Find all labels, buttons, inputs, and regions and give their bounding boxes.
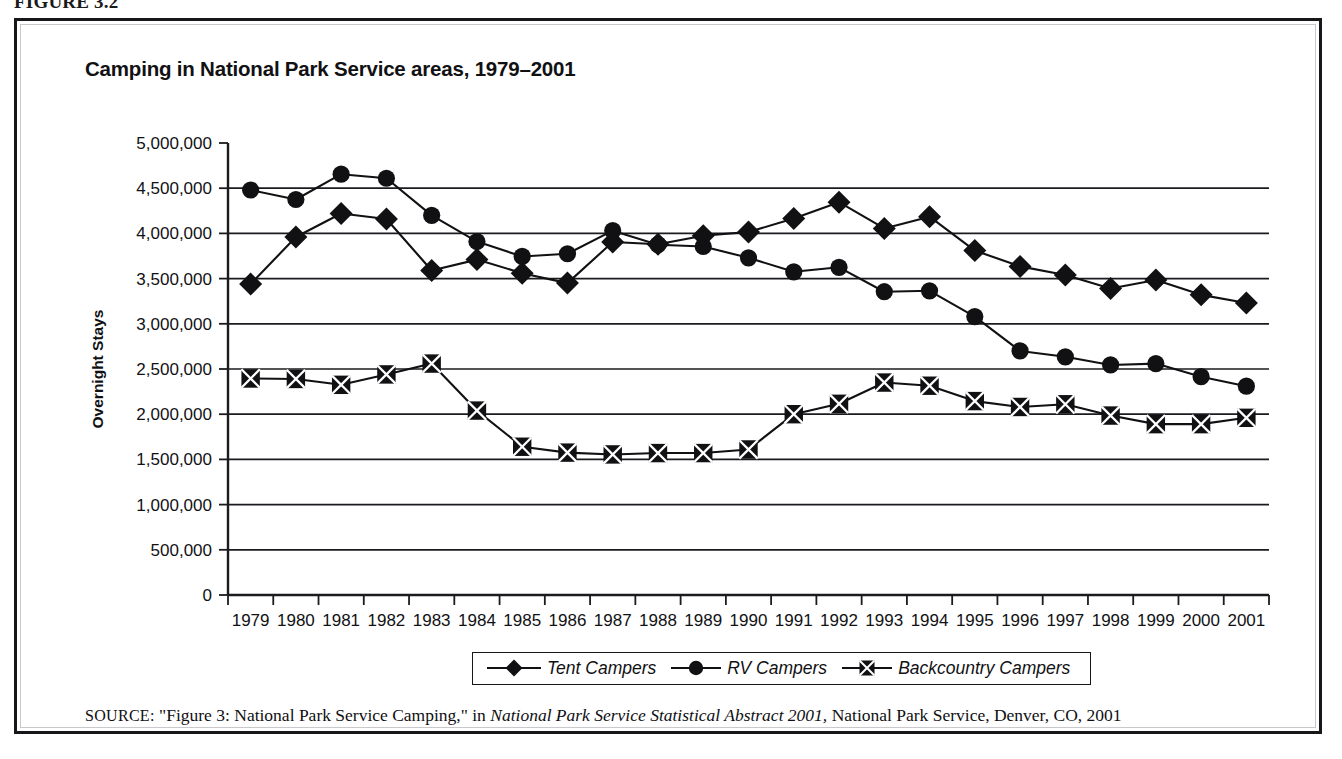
y-axis-title: Overnight Stays [89, 310, 106, 429]
data-point-diamond [1009, 255, 1032, 278]
y-axis-tick-label: 3,000,000 [136, 315, 212, 334]
crossed-square-marker-icon [841, 657, 893, 679]
data-point-circle [830, 259, 847, 276]
y-axis-tick-label: 4,000,000 [136, 224, 212, 243]
x-axis-tick-label: 1998 [1092, 611, 1130, 630]
y-axis-tick-label: 5,000,000 [136, 134, 212, 153]
data-point-circle [921, 282, 938, 299]
x-axis-tick-label: 1982 [367, 611, 405, 630]
data-point-circle [514, 248, 531, 265]
legend-label-rv-campers: RV Campers [727, 658, 827, 679]
data-point-circle [242, 181, 259, 198]
x-axis-tick-label: 1995 [956, 611, 994, 630]
x-axis-tick-label: 1987 [594, 611, 632, 630]
legend-entry-backcountry-campers: Backcountry Campers [841, 657, 1077, 679]
data-point-circle [287, 191, 304, 208]
data-point-circle [740, 249, 757, 266]
legend-entry-tent-campers: Tent Campers [486, 657, 663, 679]
data-point-diamond [1190, 283, 1213, 306]
data-point-circle [1147, 355, 1164, 372]
data-point-diamond [963, 239, 986, 262]
data-point-diamond [1054, 263, 1077, 286]
data-point-circle [785, 263, 802, 280]
data-point-circle [559, 245, 576, 262]
data-point-diamond [737, 221, 760, 244]
data-point-circle [423, 207, 440, 224]
source-note: SOURCE: "Figure 3: National Park Service… [85, 705, 1297, 727]
x-axis-tick-label: 2001 [1227, 611, 1265, 630]
figure-caption: FIGURE 3.2 [14, 0, 118, 13]
x-axis-tick-label: 1996 [1001, 611, 1039, 630]
y-axis-tick-label: 2,500,000 [136, 360, 212, 379]
data-point-circle [1057, 348, 1074, 365]
data-point-circle [1193, 368, 1210, 385]
circle-marker-icon [670, 657, 722, 679]
data-point-circle [378, 170, 395, 187]
data-point-circle [604, 222, 621, 239]
series-backcountry-campers [241, 354, 1255, 463]
y-axis-tick-label: 2,000,000 [136, 405, 212, 424]
data-point-circle [695, 238, 712, 255]
y-axis-tick-label: 1,500,000 [136, 450, 212, 469]
x-axis-ticks: 1979198019811982198319841985198619871988… [228, 595, 1269, 630]
series-line [251, 174, 1247, 386]
series-rv-campers [242, 166, 1255, 395]
data-point-circle [966, 308, 983, 325]
data-point-circle [1102, 356, 1119, 373]
x-axis-tick-label: 1983 [413, 611, 451, 630]
x-axis-tick-label: 1985 [503, 611, 541, 630]
x-axis-tick-label: 1986 [549, 611, 587, 630]
source-publication-title: National Park Service Statistical Abstra… [490, 705, 827, 725]
data-point-diamond [782, 207, 805, 230]
x-axis-tick-label: 1993 [865, 611, 903, 630]
source-text-part-2: National Park Service, Denver, CO, 2001 [827, 705, 1121, 725]
x-axis-tick-label: 1989 [684, 611, 722, 630]
data-point-circle [1011, 342, 1028, 359]
x-axis-tick-label: 1999 [1137, 611, 1175, 630]
diamond-marker-icon [486, 657, 542, 679]
y-axis-tick-label: 3,500,000 [136, 270, 212, 289]
source-text-part-1: "Figure 3: National Park Service Camping… [155, 705, 491, 725]
data-point-circle [649, 236, 666, 253]
y-axis-tick-label: 4,500,000 [136, 179, 212, 198]
chart-legend: Tent Campers RV Campers Backcountry Camp… [472, 652, 1091, 685]
y-axis-tick-label: 1,000,000 [136, 496, 212, 515]
x-axis-tick-label: 1981 [322, 611, 360, 630]
chart-plot-area: 5,000,0004,500,0004,000,0003,500,0003,00… [17, 21, 1325, 737]
data-point-circle [333, 166, 350, 183]
figure-frame: Camping in National Park Service areas, … [14, 18, 1322, 734]
data-point-diamond [1099, 277, 1122, 300]
x-axis-tick-label: 1997 [1046, 611, 1084, 630]
data-point-diamond [1144, 268, 1167, 291]
data-point-diamond [330, 202, 353, 225]
legend-label-tent-campers: Tent Campers [547, 658, 656, 679]
x-axis-tick-label: 1994 [911, 611, 949, 630]
data-point-diamond [873, 217, 896, 240]
x-axis-tick-label: 1979 [232, 611, 270, 630]
y-gridlines: 5,000,0004,500,0004,000,0003,500,0003,00… [136, 134, 1269, 605]
source-kicker: SOURCE: [85, 707, 155, 724]
data-point-diamond [465, 248, 488, 271]
x-axis-tick-label: 1980 [277, 611, 315, 630]
x-axis-tick-label: 1992 [820, 611, 858, 630]
x-axis-tick-label: 1984 [458, 611, 496, 630]
data-point-circle [876, 283, 893, 300]
x-axis-tick-label: 2000 [1182, 611, 1220, 630]
data-point-circle [1238, 378, 1255, 395]
line-chart-svg: 5,000,0004,500,0004,000,0003,500,0003,00… [17, 21, 1325, 737]
y-axis-tick-label: 0 [203, 586, 212, 605]
legend-label-backcountry-campers: Backcountry Campers [898, 658, 1070, 679]
data-point-diamond [1235, 292, 1258, 315]
x-axis-tick-label: 1991 [775, 611, 813, 630]
data-point-diamond [511, 262, 534, 285]
x-axis-tick-label: 1990 [730, 611, 768, 630]
y-axis-tick-label: 500,000 [151, 541, 212, 560]
data-point-diamond [918, 205, 941, 228]
data-point-circle [468, 233, 485, 250]
x-axis-tick-label: 1988 [639, 611, 677, 630]
data-point-diamond [828, 191, 851, 214]
legend-entry-rv-campers: RV Campers [670, 657, 834, 679]
